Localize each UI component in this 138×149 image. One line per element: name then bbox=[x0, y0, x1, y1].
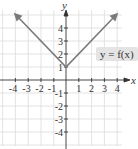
function-label: y = f(x) bbox=[96, 47, 138, 61]
x-axis-label: x bbox=[130, 74, 136, 86]
svg-text:2: 2 bbox=[58, 49, 63, 60]
svg-text:2: 2 bbox=[89, 83, 94, 94]
svg-text:1: 1 bbox=[76, 83, 81, 94]
x-axis-arrow-icon bbox=[124, 78, 130, 82]
function-graph: x y -4 -3 -2 -1 1 2 3 4 4 3 2 1 -1 -2 -3… bbox=[0, 0, 138, 149]
svg-text:3: 3 bbox=[58, 36, 63, 47]
svg-text:4: 4 bbox=[115, 83, 120, 94]
x-tick-labels: -4 -3 -2 -1 1 2 3 4 bbox=[9, 83, 120, 94]
svg-text:-3: -3 bbox=[55, 114, 63, 125]
svg-text:-1: -1 bbox=[55, 88, 63, 99]
y-axis-label: y bbox=[61, 0, 67, 11]
svg-text:-2: -2 bbox=[55, 101, 63, 112]
svg-text:-2: -2 bbox=[35, 83, 43, 94]
svg-text:-4: -4 bbox=[55, 127, 63, 138]
svg-text:-4: -4 bbox=[9, 83, 17, 94]
svg-text:3: 3 bbox=[102, 83, 107, 94]
svg-text:-3: -3 bbox=[22, 83, 30, 94]
axes bbox=[0, 10, 130, 149]
svg-text:4: 4 bbox=[58, 23, 63, 34]
